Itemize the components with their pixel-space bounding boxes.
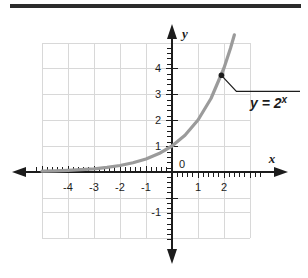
y-tick-label--1: -1 [151, 206, 161, 218]
curve-equation-exponent: x [281, 94, 288, 105]
x-axis-arrow-left [12, 167, 26, 177]
y-axis-tick-labels: 4 3 2 1 -1 [151, 62, 161, 218]
y-tick-label-2: 2 [155, 114, 161, 126]
y-axis-arrow-down [167, 249, 177, 264]
x-tick-label-1: 1 [195, 181, 201, 193]
x-axis-tick-labels: -4 -3 -2 -1 1 2 [63, 181, 227, 193]
grid-lines [42, 43, 250, 238]
coordinate-plane-chart: -4 -3 -2 -1 1 2 4 3 2 1 -1 0 y x y = 2x [0, 0, 308, 278]
y-axis-arrow-up [167, 24, 177, 39]
x-axis-arrow-right [274, 167, 288, 177]
exponential-curve [42, 35, 234, 171]
origin-label: 0 [179, 158, 185, 170]
figure-container: -4 -3 -2 -1 1 2 4 3 2 1 -1 0 y x y = 2x [0, 0, 308, 278]
x-tick-label-2: 2 [221, 181, 227, 193]
y-tick-label-4: 4 [155, 62, 161, 74]
x-tick-label--4: -4 [63, 181, 73, 193]
x-tick-label--2: -2 [115, 181, 125, 193]
curve-equation-label: y = 2x [249, 94, 288, 111]
curve-annotation-leader [219, 73, 300, 92]
y-tick-label-1: 1 [155, 140, 161, 152]
x-tick-label--1: -1 [141, 181, 151, 193]
curve-equation-base: y = 2 [249, 95, 282, 111]
y-tick-label-3: 3 [155, 88, 161, 100]
x-axis-label: x [268, 151, 276, 166]
y-axis-label: y [180, 26, 188, 41]
x-tick-label--3: -3 [89, 181, 99, 193]
